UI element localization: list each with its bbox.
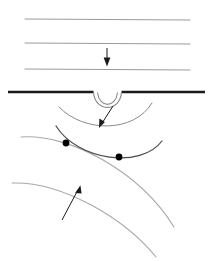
refracted-dark-curve-group xyxy=(56,126,162,158)
diffracted-arc xyxy=(59,103,152,126)
wavefront-callout-arrow xyxy=(62,185,82,220)
aperture-notch-group xyxy=(94,92,122,107)
figure-canvas xyxy=(0,0,213,261)
incident-direction-arrow xyxy=(104,48,111,67)
incident-direction-arrow-head xyxy=(104,58,111,67)
diffraction-callout-arrow xyxy=(99,106,113,128)
incident-wavefront-2 xyxy=(25,43,190,44)
intersection-point-right xyxy=(116,154,123,161)
wave-diagram xyxy=(0,0,213,261)
wavefront-callout-arrow-shaft xyxy=(62,189,78,220)
incident-wavefront-1 xyxy=(25,19,190,20)
wavefront-callout-arrow-head xyxy=(75,185,81,193)
incident-wavefront-3 xyxy=(25,69,190,70)
intersection-point-left xyxy=(63,140,70,147)
diffracted-wavefront-group xyxy=(59,103,152,126)
refracted-dark-curve xyxy=(56,126,162,158)
gray-wavefront-arc-group xyxy=(12,137,174,257)
aperture-notch-inner xyxy=(98,93,118,105)
gray-arc-lower xyxy=(12,183,156,257)
